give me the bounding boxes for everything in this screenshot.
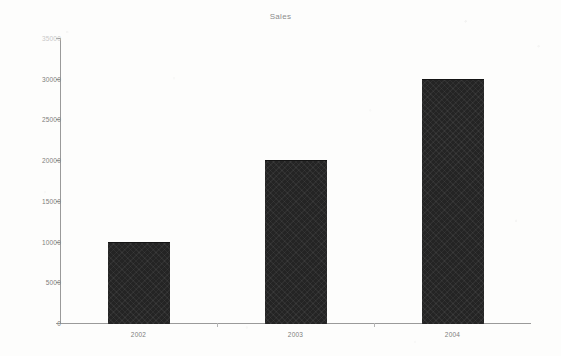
y-axis-tick-label: 25000 bbox=[15, 116, 61, 123]
y-axis-tick-label: 30000 bbox=[15, 75, 61, 82]
x-axis-category-label: 2002 bbox=[131, 331, 146, 338]
y-axis-tick-label: 5000 bbox=[15, 279, 61, 286]
bar bbox=[422, 79, 484, 324]
y-axis-tick: 30000 bbox=[0, 79, 61, 80]
x-axis-category-label: 2004 bbox=[445, 331, 460, 338]
y-axis-tick: 5000 bbox=[0, 282, 61, 283]
y-axis-tick: 10000 bbox=[0, 242, 61, 243]
y-axis-tick: 0 bbox=[0, 323, 61, 324]
y-axis-tick-label: 10000 bbox=[15, 238, 61, 245]
y-axis-tick: 15000 bbox=[0, 201, 61, 202]
y-axis-tick-label: 20000 bbox=[15, 157, 61, 164]
bar bbox=[265, 160, 327, 324]
y-axis-tick-label: 35000 bbox=[15, 35, 61, 42]
y-axis-tick-label: 0 bbox=[15, 320, 61, 327]
y-axis-tick-label: 15000 bbox=[15, 197, 61, 204]
y-axis-tick: 35000 bbox=[0, 38, 61, 39]
x-axis-tick-mark bbox=[374, 323, 375, 327]
x-axis-category-label: 2003 bbox=[288, 331, 303, 338]
bar bbox=[108, 242, 170, 324]
x-axis-tick-mark bbox=[217, 323, 218, 327]
chart-page: Sales 0500010000150002000025000300003500… bbox=[0, 0, 561, 356]
y-axis-tick: 20000 bbox=[0, 160, 61, 161]
plot-area: 05000100001500020000250003000035000 2002… bbox=[0, 0, 561, 356]
y-axis-tick: 25000 bbox=[0, 119, 61, 120]
